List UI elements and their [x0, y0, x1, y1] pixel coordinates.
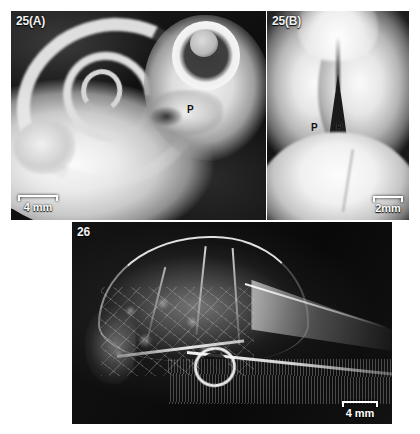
scalebar-bracket: [373, 196, 403, 202]
panel-25b[interactable]: 25(B) P P 2mm: [267, 11, 409, 220]
figure-sheet: 25(A) P 4 mm 25(B) P P 2mm: [0, 0, 420, 434]
palate-marker-a: P: [187, 104, 194, 115]
panel-label-26: 26: [77, 225, 90, 239]
palatal-shelf-marker-right: P: [336, 122, 343, 133]
scalebar-label: 4 mm: [346, 407, 375, 419]
panel-label-25a: 25(A): [16, 14, 45, 28]
scalebar-25b: 2mm: [373, 196, 403, 214]
palatal-shelf-marker-left: P: [311, 122, 318, 133]
panel-label-25b: 25(B): [272, 14, 301, 28]
scalebar-26: 4 mm: [342, 401, 378, 419]
panel-25a[interactable]: 25(A) P 4 mm: [11, 11, 266, 220]
scalebar-label: 4 mm: [24, 201, 53, 213]
soft-tissue-fringe: [168, 359, 392, 403]
scalebar-bracket: [18, 195, 58, 201]
panel-26[interactable]: 26 4 mm: [72, 222, 392, 424]
scalebar-bracket: [342, 401, 378, 407]
embryo-oral-shadow: [151, 107, 182, 126]
scalebar-25a: 4 mm: [18, 195, 58, 213]
embryo-limb-bud: [14, 120, 75, 174]
scalebar-label: 2mm: [375, 202, 401, 214]
embryo-eye-lens: [190, 30, 218, 57]
